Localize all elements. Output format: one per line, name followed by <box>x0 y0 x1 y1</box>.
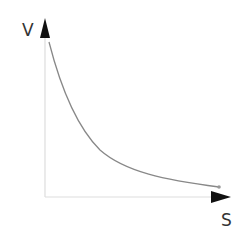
curve-endpoint <box>217 185 221 189</box>
x-axis-label: S <box>221 210 232 230</box>
curve <box>49 42 219 187</box>
y-axis-arrow-icon <box>40 18 50 38</box>
x-axis-arrow-icon <box>211 191 231 203</box>
y-axis-label: V <box>22 20 34 40</box>
diagram-canvas <box>0 0 246 233</box>
